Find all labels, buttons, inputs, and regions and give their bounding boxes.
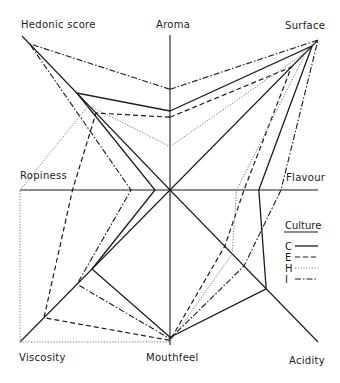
axis-label-flavour: Flavour <box>286 172 326 183</box>
radar-chart: Hedonic score Aroma Surface Ropiness Fla… <box>0 0 340 383</box>
legend-key-E: E <box>285 252 291 263</box>
series-C <box>77 46 312 337</box>
axis-line-surface <box>170 40 318 190</box>
axis-label-aroma: Aroma <box>156 19 190 30</box>
axis-label-ropiness: Ropiness <box>20 170 67 181</box>
legend: Culture CEHI <box>284 220 321 285</box>
axis-label-viscosity: Viscosity <box>19 352 66 363</box>
legend-key-C: C <box>285 241 292 252</box>
axis-label-acidity: Acidity <box>289 355 325 366</box>
axis-label-mouthfeel: Mouthfeel <box>146 352 199 363</box>
axis-label-surface: Surface <box>285 20 325 31</box>
legend-key-H: H <box>285 263 293 274</box>
axis-label-hedonic: Hedonic score <box>21 19 96 30</box>
series-E <box>44 67 291 340</box>
legend-key-I: I <box>285 274 288 285</box>
legend-title: Culture <box>285 220 321 231</box>
radar-axes <box>20 35 318 345</box>
